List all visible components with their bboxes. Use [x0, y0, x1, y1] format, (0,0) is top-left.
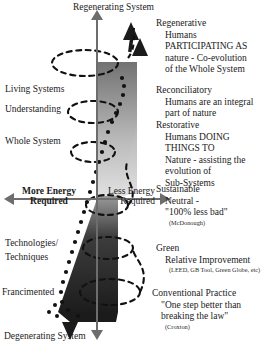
level-line-sustainable-2: "100% less bad"	[156, 207, 228, 219]
left-label-whole-system: Whole System	[5, 136, 61, 147]
left-label-understanding: Understanding	[5, 104, 61, 115]
level-block-sustainable: Sustainable Neutral - "100% less bad" (M…	[156, 184, 228, 226]
left-label-technologies-line2: Techniques	[5, 252, 48, 263]
level-heading-restorative: Restorative	[156, 120, 245, 132]
level-heading-green: Green	[156, 243, 260, 255]
level-block-conventional-practice: Conventional Practice "One step better t…	[152, 288, 241, 330]
left-label-fragmented: Francimented	[2, 287, 54, 298]
axis-label-more-energy-line2: Required	[10, 196, 88, 207]
level-line-restorative-1: Humans DOING	[156, 132, 245, 144]
left-label-technologies-line1: Technologies/	[5, 238, 58, 249]
level-line-conventional-2: breaking the law"	[152, 311, 241, 323]
level-source-sustainable: (McDonough)	[156, 219, 228, 227]
regenerative-design-diagram: Regenerating System Degenerating System …	[0, 0, 268, 348]
level-line-green-1: Relative Improvement	[156, 255, 260, 267]
level-line-restorative-4: evolution of	[156, 166, 245, 178]
level-line-regenerative-3: nature - Co-evolution	[156, 53, 247, 65]
level-heading-sustainable: Sustainable	[156, 184, 228, 196]
level-block-reconciliatory: Reconciliatory Humans are an integral pa…	[156, 85, 253, 120]
level-block-regenerative: Regenerative Humans PARTICIPATING AS nat…	[156, 18, 247, 76]
level-block-restorative: Restorative Humans DOING THINGS TO Natur…	[156, 120, 245, 189]
axis-label-less-energy-line2: Required	[97, 196, 155, 207]
level-line-reconciliatory-1: Humans are an integral	[156, 97, 253, 109]
left-label-living-systems: Living Systems	[5, 84, 64, 95]
level-line-sustainable-1: Neutral -	[156, 196, 228, 208]
level-line-restorative-2: THINGS TO	[156, 143, 245, 155]
level-line-regenerative-4: of the Whole System	[156, 64, 247, 76]
axis-label-regenerating-system: Regenerating System	[73, 2, 154, 13]
level-block-green: Green Relative Improvement (LEED, GB Too…	[156, 243, 260, 274]
level-line-conventional-1: "One step better than	[152, 300, 241, 312]
axis-arrow-down	[91, 330, 103, 340]
spiral-up-arrows	[123, 22, 148, 56]
level-source-conventional: (Croxton)	[152, 323, 241, 331]
level-line-regenerative-2: PARTICIPATING AS	[156, 41, 247, 53]
level-heading-conventional-practice: Conventional Practice	[152, 288, 241, 300]
level-heading-reconciliatory: Reconciliatory	[156, 85, 253, 97]
vertical-axis-line	[96, 18, 98, 336]
level-line-restorative-3: Nature - assisting the	[156, 155, 245, 167]
level-source-green: (LEED, GB Tool, Green Globe, etc)	[156, 266, 260, 274]
level-line-regenerative-1: Humans	[156, 30, 247, 42]
level-heading-regenerative: Regenerative	[156, 18, 247, 30]
level-line-reconciliatory-2: part of nature	[156, 108, 253, 120]
axis-label-degenerating-system: Degenerating System	[4, 331, 86, 342]
